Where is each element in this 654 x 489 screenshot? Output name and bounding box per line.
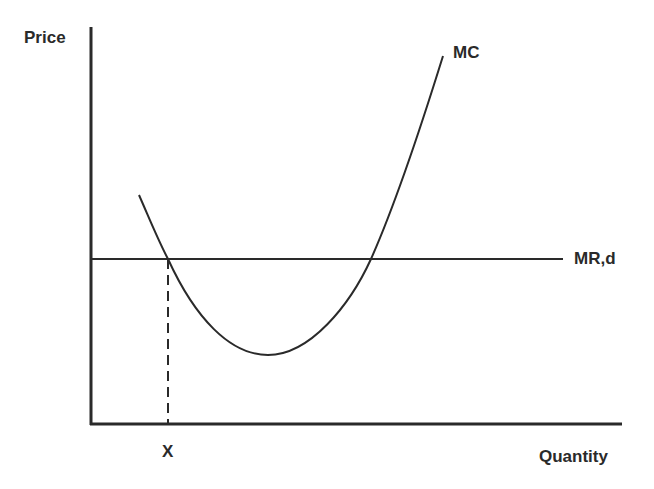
quantity-axis-label: Quantity [539,447,608,466]
mc-mr-diagram: Price MC MR,d X Quantity [0,0,654,489]
mc-curve [139,56,443,355]
price-axis-label: Price [24,28,66,47]
x-quantity-label: X [162,442,174,461]
mr-d-label: MR,d [574,249,616,268]
mc-label: MC [453,43,479,62]
